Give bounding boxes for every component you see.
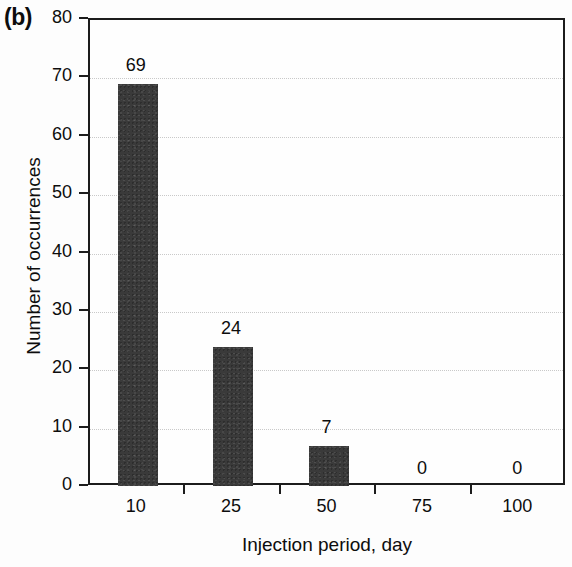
- y-axis-tick-label: 80: [8, 7, 72, 28]
- y-axis-tick-label: 40: [8, 241, 72, 262]
- bar-value-label: 7: [279, 417, 375, 438]
- gridline: [90, 137, 563, 138]
- y-axis-tick-mark: [79, 17, 88, 19]
- y-axis-tick-mark: [79, 134, 88, 136]
- y-axis-tick-mark: [79, 426, 88, 428]
- x-axis-tick-label: 75: [374, 496, 470, 517]
- bar-value-label: 24: [183, 318, 279, 339]
- gridline: [90, 195, 563, 196]
- y-axis-tick-mark: [79, 484, 88, 486]
- bar-value-label: 0: [374, 458, 470, 479]
- plot-area: [88, 18, 565, 485]
- x-axis-tick-mark: [374, 485, 376, 494]
- y-axis-tick-mark: [79, 367, 88, 369]
- bar: [213, 347, 253, 486]
- y-axis-tick-mark: [79, 251, 88, 253]
- bar-value-label: 69: [88, 55, 184, 76]
- x-axis-tick-mark: [279, 485, 281, 494]
- x-axis-title: Injection period, day: [88, 534, 566, 556]
- y-axis-tick-mark: [79, 192, 88, 194]
- y-axis-tick-label: 70: [8, 65, 72, 86]
- y-axis-tick-mark: [79, 75, 88, 77]
- x-axis-tick-label: 10: [88, 496, 184, 517]
- gridline: [90, 370, 563, 371]
- y-axis-tick-label: 50: [8, 182, 72, 203]
- bar: [309, 446, 349, 486]
- y-axis-tick-label: 60: [8, 124, 72, 145]
- bar-chart-figure: (b) Number of occurrences 01020304050607…: [0, 0, 572, 567]
- gridline: [90, 254, 563, 255]
- y-axis-tick-label: 30: [8, 299, 72, 320]
- x-axis-tick-label: 50: [279, 496, 375, 517]
- y-axis-tick-label: 20: [8, 357, 72, 378]
- x-axis-tick-label: 25: [183, 496, 279, 517]
- y-axis-tick-label: 10: [8, 416, 72, 437]
- y-axis-tick-mark: [79, 309, 88, 311]
- x-axis-tick-mark: [183, 485, 185, 494]
- gridline: [90, 312, 563, 313]
- x-axis-tick-label: 100: [469, 496, 565, 517]
- bar-value-label: 0: [469, 458, 565, 479]
- y-axis-tick-label: 0: [8, 474, 72, 495]
- bar: [118, 84, 158, 486]
- gridline: [90, 78, 563, 79]
- x-axis-tick-mark: [470, 485, 472, 494]
